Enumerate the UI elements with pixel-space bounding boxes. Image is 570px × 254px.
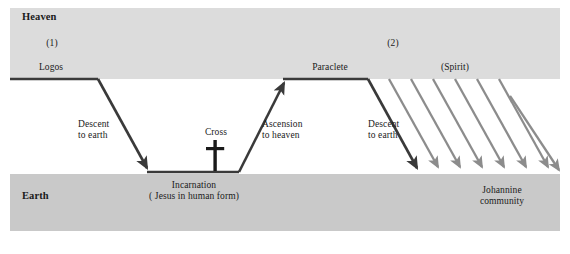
spirit-arrow-7 <box>510 96 559 170</box>
incarnation-label: Incarnation ( Jesus in human form) <box>149 180 239 202</box>
incarnation-gloss: ( Jesus in human form) <box>149 191 239 202</box>
logos-label: Logos <box>39 62 63 73</box>
earth-band <box>10 174 560 231</box>
ascension-line2: to heaven <box>262 130 302 141</box>
spirit-arrow-3 <box>433 79 482 167</box>
incarnation-title: Incarnation <box>149 180 239 191</box>
spirit-arrow-2 <box>411 79 460 167</box>
phase-one-marker: (1) <box>46 38 57 49</box>
descent-to-earth-label-1: Descent to earth <box>78 119 109 141</box>
johannine-community-label: Johannine community <box>480 185 524 207</box>
spirit-arrow-6 <box>499 79 548 167</box>
descent-to-earth-label-2: Descent to earth <box>368 119 399 141</box>
earth-band-label: Earth <box>22 190 49 202</box>
heaven-band <box>10 8 560 79</box>
ascension-to-heaven-label: Ascension to heaven <box>262 119 302 141</box>
descent-to-earth-line2: to earth <box>78 130 109 141</box>
cross-label: Cross <box>205 127 227 138</box>
cross-icon <box>206 140 224 171</box>
descent2-line2: to earth <box>368 130 399 141</box>
descent-to-earth-line1: Descent <box>78 119 109 130</box>
johannine-line2: community <box>480 196 524 207</box>
phase-two-marker: (2) <box>387 38 398 49</box>
spirit-label: (Spirit) <box>441 62 469 73</box>
ascension-line1: Ascension <box>262 119 302 130</box>
paraclete-label: Paraclete <box>312 62 348 73</box>
johannine-line1: Johannine <box>480 185 524 196</box>
descent2-line1: Descent <box>368 119 399 130</box>
spirit-arrow-5 <box>477 79 526 167</box>
spirit-arrows-group <box>389 79 559 170</box>
johannine-descent-ascent-diagram: Heaven Earth (1) (2) Logos Paraclete (Sp… <box>0 0 570 254</box>
heaven-band-label: Heaven <box>22 11 56 23</box>
spirit-arrow-4 <box>455 79 504 167</box>
